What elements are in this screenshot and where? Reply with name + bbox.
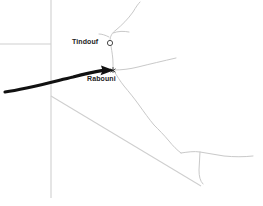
road-lower-east [181, 152, 253, 157]
road-tindouf-west-spur [99, 34, 109, 37]
road-tindouf-to-rabouni [111, 46, 113, 70]
place-label-tindouf: Tindouf [72, 38, 98, 46]
road-rabouni-southeast [114, 71, 181, 153]
road-rabouni-east [114, 58, 176, 70]
place-label-rabouni: Rabouni [87, 75, 116, 83]
diagonal-border-line [51, 96, 201, 186]
road-lower-south-branch [199, 152, 203, 184]
road-network [99, 2, 253, 184]
road-tindouf-north [110, 2, 140, 41]
road-tindouf-east-spur [113, 31, 129, 33]
hollow-circle-marker [107, 40, 112, 45]
map-vector-layer [0, 0, 263, 206]
border-lines [0, 0, 201, 198]
map-canvas: Tindouf Rabouni [0, 0, 263, 206]
place-markers [107, 40, 115, 72]
